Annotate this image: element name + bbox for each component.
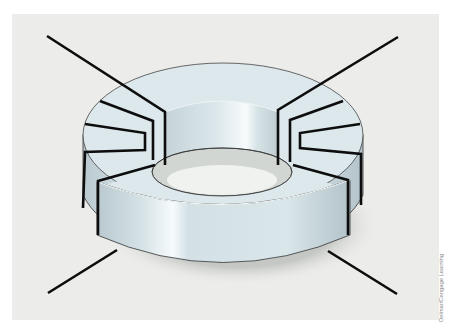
lead-bottom-right bbox=[328, 251, 397, 294]
image-credit: Delmar/Cengage Learning bbox=[438, 254, 444, 322]
toroid-diagram bbox=[0, 0, 461, 332]
lead-bottom-left bbox=[48, 250, 117, 293]
core-hole-floor-highlight bbox=[167, 165, 277, 195]
figure-frame: Delmar/Cengage Learning bbox=[0, 0, 461, 332]
